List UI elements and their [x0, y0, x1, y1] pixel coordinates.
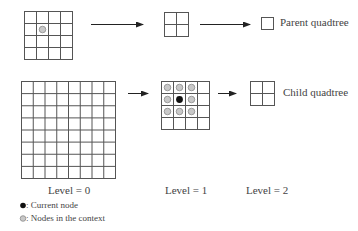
level-0-label: Level = 0 [48, 184, 90, 196]
context-node-icon [176, 84, 183, 91]
current-node-icon [176, 96, 183, 103]
legend-current-node: : Current node [26, 200, 78, 210]
legend-current-label: Current node [31, 200, 78, 210]
quadtree-diagram [0, 0, 358, 231]
parent-level2-box [262, 18, 274, 30]
context-node-icon [164, 84, 171, 91]
context-node-icon [164, 108, 171, 115]
context-node-icon [188, 96, 195, 103]
legend-context-node: : Nodes in the context [26, 213, 105, 223]
legend-context-label: Nodes in the context [31, 213, 105, 223]
parent-quadtree-label: Parent quadtree [280, 16, 349, 28]
context-node-icon [39, 26, 46, 33]
level-1-label: Level = 1 [165, 184, 207, 196]
parent-level1-grid [165, 13, 189, 37]
legend-context-node-icon [20, 216, 26, 222]
context-node-icon [188, 84, 195, 91]
level-2-label: Level = 2 [246, 184, 288, 196]
child-quadtree-label: Child quadtree [283, 86, 348, 98]
child-level0-grid [22, 82, 116, 179]
context-node-icon [164, 96, 171, 103]
legend-current-node-icon [20, 203, 26, 209]
context-node-icon [176, 108, 183, 115]
parent-level0-grid [25, 12, 73, 60]
child-level2-grid [251, 82, 275, 106]
context-node-icon [188, 108, 195, 115]
